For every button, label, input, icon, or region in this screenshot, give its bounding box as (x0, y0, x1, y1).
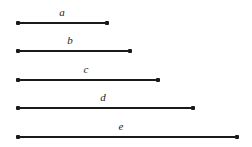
segment-start-endpoint-icon (16, 78, 20, 82)
segment-end-endpoint-icon (105, 21, 109, 25)
segment-label: e (119, 121, 124, 132)
segment-start-endpoint-icon (16, 135, 20, 139)
segment-label: d (100, 92, 106, 103)
segment-end-endpoint-icon (235, 135, 239, 139)
segment-line (18, 22, 107, 24)
segment-line (18, 136, 237, 138)
segment-label: a (59, 7, 65, 18)
segment-start-endpoint-icon (16, 21, 20, 25)
segment-label: b (67, 35, 73, 46)
segment-label: c (84, 64, 89, 75)
segment-end-endpoint-icon (156, 78, 160, 82)
segment-group: abcde (0, 0, 252, 147)
segment-line (18, 50, 130, 52)
line-segment-figure: abcde (0, 0, 252, 147)
segment-line (18, 79, 158, 81)
segment-end-endpoint-icon (191, 106, 195, 110)
segment-line (18, 107, 193, 109)
segment-start-endpoint-icon (16, 49, 20, 53)
segment-start-endpoint-icon (16, 106, 20, 110)
segment-end-endpoint-icon (128, 49, 132, 53)
